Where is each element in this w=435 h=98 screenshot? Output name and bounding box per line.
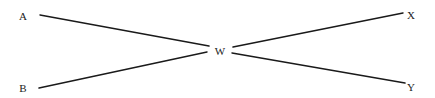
- edge-w-y: [232, 53, 405, 83]
- node-a-label: A: [19, 10, 27, 22]
- graph-svg: A B W X Y: [0, 0, 435, 98]
- node-x-label: X: [407, 9, 415, 21]
- edge-a-w: [40, 15, 209, 46]
- edge-b-w: [39, 52, 207, 88]
- node-y-label: Y: [407, 81, 415, 93]
- node-w-label: W: [215, 45, 226, 57]
- node-b-label: B: [19, 82, 26, 94]
- diagram-canvas: A B W X Y: [0, 0, 435, 98]
- edge-w-x: [233, 13, 403, 47]
